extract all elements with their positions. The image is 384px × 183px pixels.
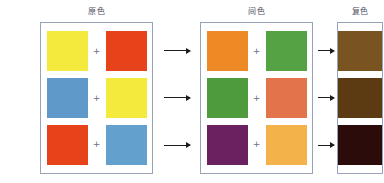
right-arrow-icon [164, 50, 190, 51]
right-arrow-icon [164, 97, 190, 98]
color-swatch-primary-b [106, 31, 147, 71]
plus-icon: + [248, 140, 266, 149]
right-arrow-icon [318, 145, 334, 146]
stage-secondary-title: 间色 [200, 7, 313, 17]
plus-icon: + [88, 94, 106, 103]
color-swatch-tertiary [338, 125, 382, 165]
right-arrow-icon [164, 145, 190, 146]
secondary-row: + [201, 121, 312, 168]
primary-colors-panel: + + + [40, 22, 153, 174]
plus-icon: + [248, 94, 266, 103]
color-swatch-primary-a [47, 31, 88, 71]
arrow-group-secondary-to-tertiary [315, 22, 336, 174]
right-arrow-icon [318, 50, 334, 51]
secondary-row: + [201, 28, 312, 75]
arrow-slot [155, 122, 198, 169]
secondary-row: + [201, 75, 312, 122]
color-swatch-secondary-b [266, 78, 307, 118]
plus-icon: + [88, 47, 106, 56]
stage-primary-title: 原色 [40, 7, 153, 17]
tertiary-row [338, 74, 382, 121]
color-swatch-primary-a [47, 78, 88, 118]
tertiary-row [338, 122, 382, 169]
arrow-slot [315, 27, 336, 74]
secondary-colors-panel: + + + [200, 22, 313, 174]
color-swatch-primary-b [106, 125, 147, 165]
stage-tertiary-colors: 复色 [337, 0, 383, 183]
arrow-slot [315, 122, 336, 169]
primary-row: + [41, 75, 152, 122]
color-swatch-primary-b [106, 78, 147, 118]
color-swatch-secondary-b [266, 125, 307, 165]
tertiary-colors-panel [337, 22, 383, 174]
color-swatch-secondary-a [207, 78, 248, 118]
arrow-slot [315, 74, 336, 121]
stage-primary-colors: 原色 + + + [40, 0, 153, 183]
stage-secondary-colors: 间色 + + + [200, 0, 313, 183]
color-swatch-secondary-b [266, 31, 307, 71]
plus-icon: + [248, 47, 266, 56]
color-swatch-primary-a [47, 125, 88, 165]
color-swatch-tertiary [338, 78, 382, 118]
arrow-group-primary-to-secondary [155, 22, 198, 174]
plus-icon: + [88, 140, 106, 149]
primary-row: + [41, 121, 152, 168]
color-swatch-tertiary [338, 31, 382, 71]
color-swatch-secondary-a [207, 125, 248, 165]
arrow-slot [155, 27, 198, 74]
arrow-slot [155, 74, 198, 121]
tertiary-row [338, 27, 382, 74]
stage-tertiary-title: 复色 [337, 7, 383, 17]
right-arrow-icon [318, 97, 334, 98]
primary-row: + [41, 28, 152, 75]
color-mixing-diagram: 原色 + + + [0, 0, 384, 183]
color-swatch-secondary-a [207, 31, 248, 71]
